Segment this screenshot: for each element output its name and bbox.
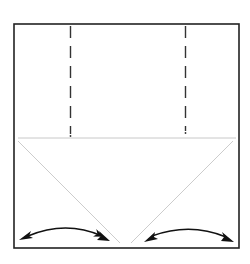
fold-end-dot-left bbox=[70, 135, 72, 137]
origami-diagram bbox=[0, 0, 250, 264]
fold-end-dot-right bbox=[185, 132, 187, 134]
paper-square bbox=[14, 24, 239, 248]
